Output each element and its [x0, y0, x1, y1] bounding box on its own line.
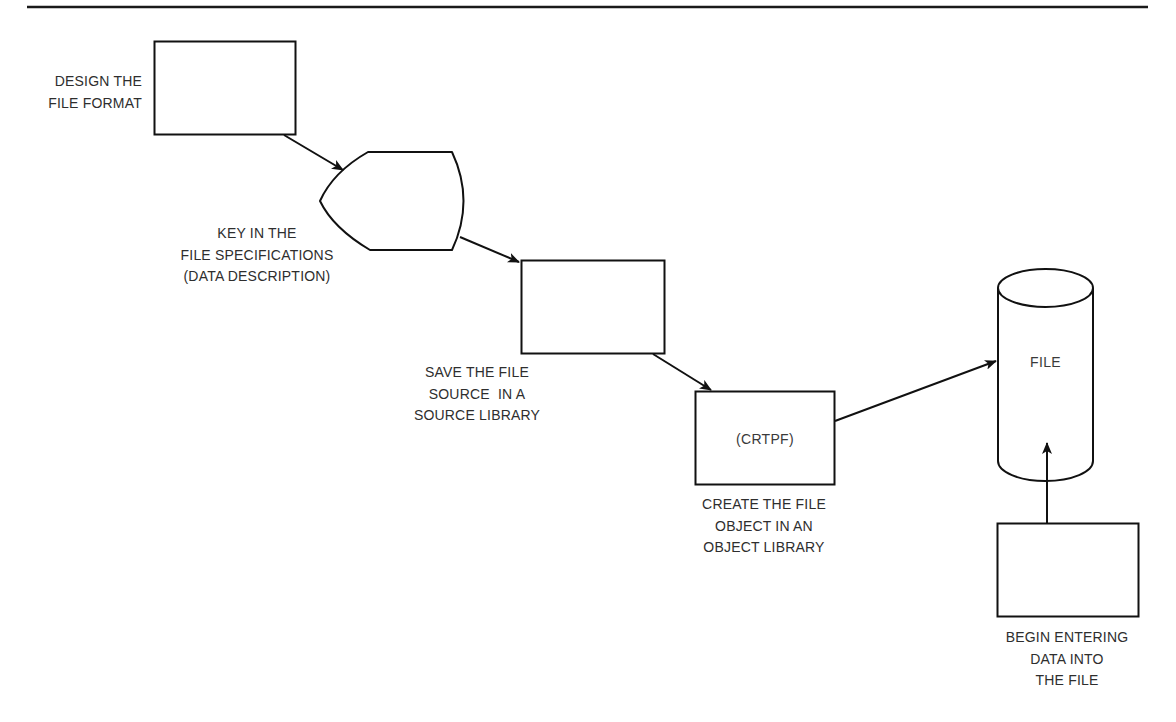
label-line: SOURCE LIBRARY [397, 405, 557, 427]
design-label: DESIGN THE FILE FORMAT [20, 71, 142, 114]
save-source-label: SAVE THE FILE SOURCE IN A SOURCE LIBRARY [397, 362, 557, 427]
label-line: DATA INTO [987, 649, 1147, 671]
label-line: CREATE THE FILE [684, 494, 844, 516]
enter-data-label: BEGIN ENTERING DATA INTO THE FILE [987, 627, 1147, 692]
arrow-design-to-keyin [284, 135, 343, 170]
label-line: DESIGN THE [20, 71, 142, 93]
crtpf-text: (CRTPF) [695, 431, 835, 447]
label-line: SOURCE IN A [397, 384, 557, 406]
arrow-create-to-file [835, 361, 996, 421]
label-line: OBJECT IN AN [684, 516, 844, 538]
label-line: OBJECT LIBRARY [684, 537, 844, 559]
create-object-label: CREATE THE FILE OBJECT IN AN OBJECT LIBR… [684, 494, 844, 559]
label-line: FILE FORMAT [20, 93, 142, 115]
label-line: KEY IN THE [157, 223, 357, 245]
design-box [155, 42, 296, 135]
label-line: FILE SPECIFICATIONS [157, 245, 357, 267]
label-line: THE FILE [987, 670, 1147, 692]
save-source-box [522, 261, 665, 354]
file-text: FILE [998, 354, 1093, 370]
arrow-keyin-to-save [460, 237, 519, 262]
enter-data-box [998, 524, 1139, 617]
arrow-save-to-create [653, 354, 711, 390]
file-cylinder [998, 269, 1093, 481]
label-line: BEGIN ENTERING [987, 627, 1147, 649]
keyin-label: KEY IN THE FILE SPECIFICATIONS (DATA DES… [157, 223, 357, 288]
label-line: SAVE THE FILE [397, 362, 557, 384]
label-line: (DATA DESCRIPTION) [157, 266, 357, 288]
